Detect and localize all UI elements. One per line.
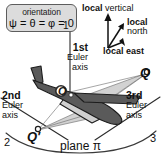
local-vertical-word: vertical: [105, 3, 134, 13]
label-third-euler-axis: 3rd Euler axis: [126, 90, 160, 120]
local-north-word: north: [127, 26, 148, 36]
label-local-vertical: local vertical: [82, 4, 134, 13]
label-first-euler-axis: 1st Euler axis: [54, 42, 88, 72]
label-point-q: Q: [140, 66, 150, 79]
label-plane-pi: plane π: [60, 140, 101, 152]
label-local-north: localnorth: [127, 18, 148, 37]
first-euler-word-axis: axis: [54, 63, 88, 73]
label-point-q-prime: Q′: [27, 130, 40, 143]
local-frame-triad: [104, 13, 125, 48]
label-second-euler-axis: 2nd Euler axis: [2, 90, 38, 120]
local-east-arrowhead: [119, 38, 125, 46]
third-euler-word-axis: axis: [126, 111, 160, 121]
origin-dot: [69, 93, 73, 97]
label-axis-1: 1: [63, 21, 69, 31]
local-vertical-arrowhead: [104, 13, 111, 21]
local-vertical-prefix: local: [82, 3, 103, 13]
label-axis-3: 3: [150, 133, 156, 144]
second-euler-word-axis: axis: [2, 111, 38, 121]
label-origin-o: O: [58, 86, 67, 97]
label-axis-2: 2: [4, 137, 10, 148]
label-local-east: local east: [103, 47, 144, 56]
orientation-title: orientation: [22, 7, 61, 17]
diagram-canvas: orientation ψ = θ = φ = 0 1st Euler axis…: [0, 0, 161, 160]
local-east-prefix: local: [103, 46, 124, 56]
local-east-word: east: [126, 46, 144, 56]
